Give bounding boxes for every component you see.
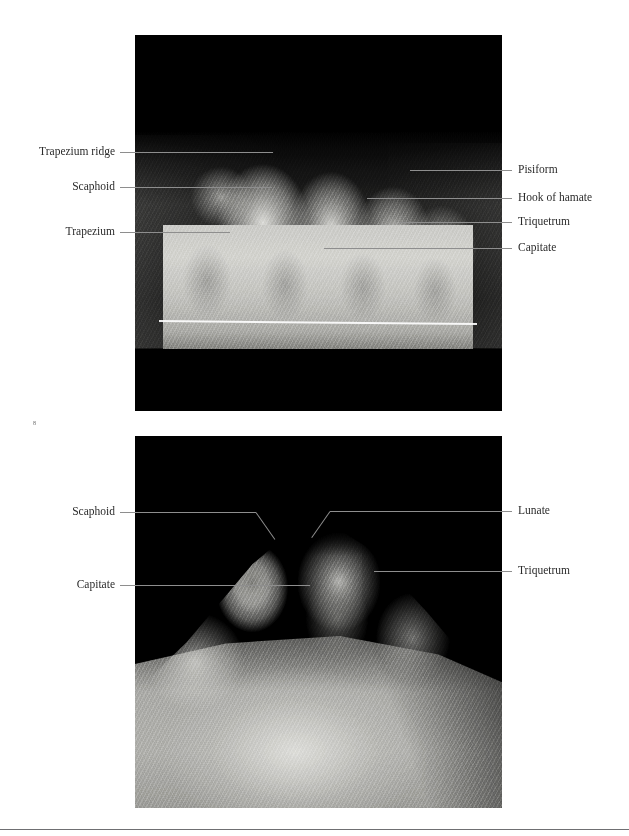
film-grain <box>135 436 502 808</box>
radiograph-image-top <box>135 35 502 411</box>
carpal-tunnel-radiograph-top <box>135 35 502 411</box>
carpal-tunnel-radiograph-bottom <box>135 436 502 808</box>
label-trapezium: Trapezium <box>0 226 115 238</box>
figure-page: Trapezium ridge Scaphoid Trapezium Pisif… <box>0 0 629 836</box>
label-hook-of-hamate: Hook of hamate <box>518 192 592 204</box>
label-capitate-bottom: Capitate <box>0 579 115 591</box>
label-trapezium-ridge: Trapezium ridge <box>0 146 115 158</box>
label-pisiform: Pisiform <box>518 164 558 176</box>
label-triquetrum-bottom: Triquetrum <box>518 565 570 577</box>
page-footer-rule <box>0 829 629 830</box>
film-grain <box>135 35 502 411</box>
label-scaphoid-bottom: Scaphoid <box>0 506 115 518</box>
label-scaphoid-top: Scaphoid <box>0 181 115 193</box>
label-lunate: Lunate <box>518 505 550 517</box>
radiograph-image-bottom <box>135 436 502 808</box>
page-mark: 8 <box>33 420 36 426</box>
label-capitate-top: Capitate <box>518 242 556 254</box>
label-triquetrum-top: Triquetrum <box>518 216 570 228</box>
